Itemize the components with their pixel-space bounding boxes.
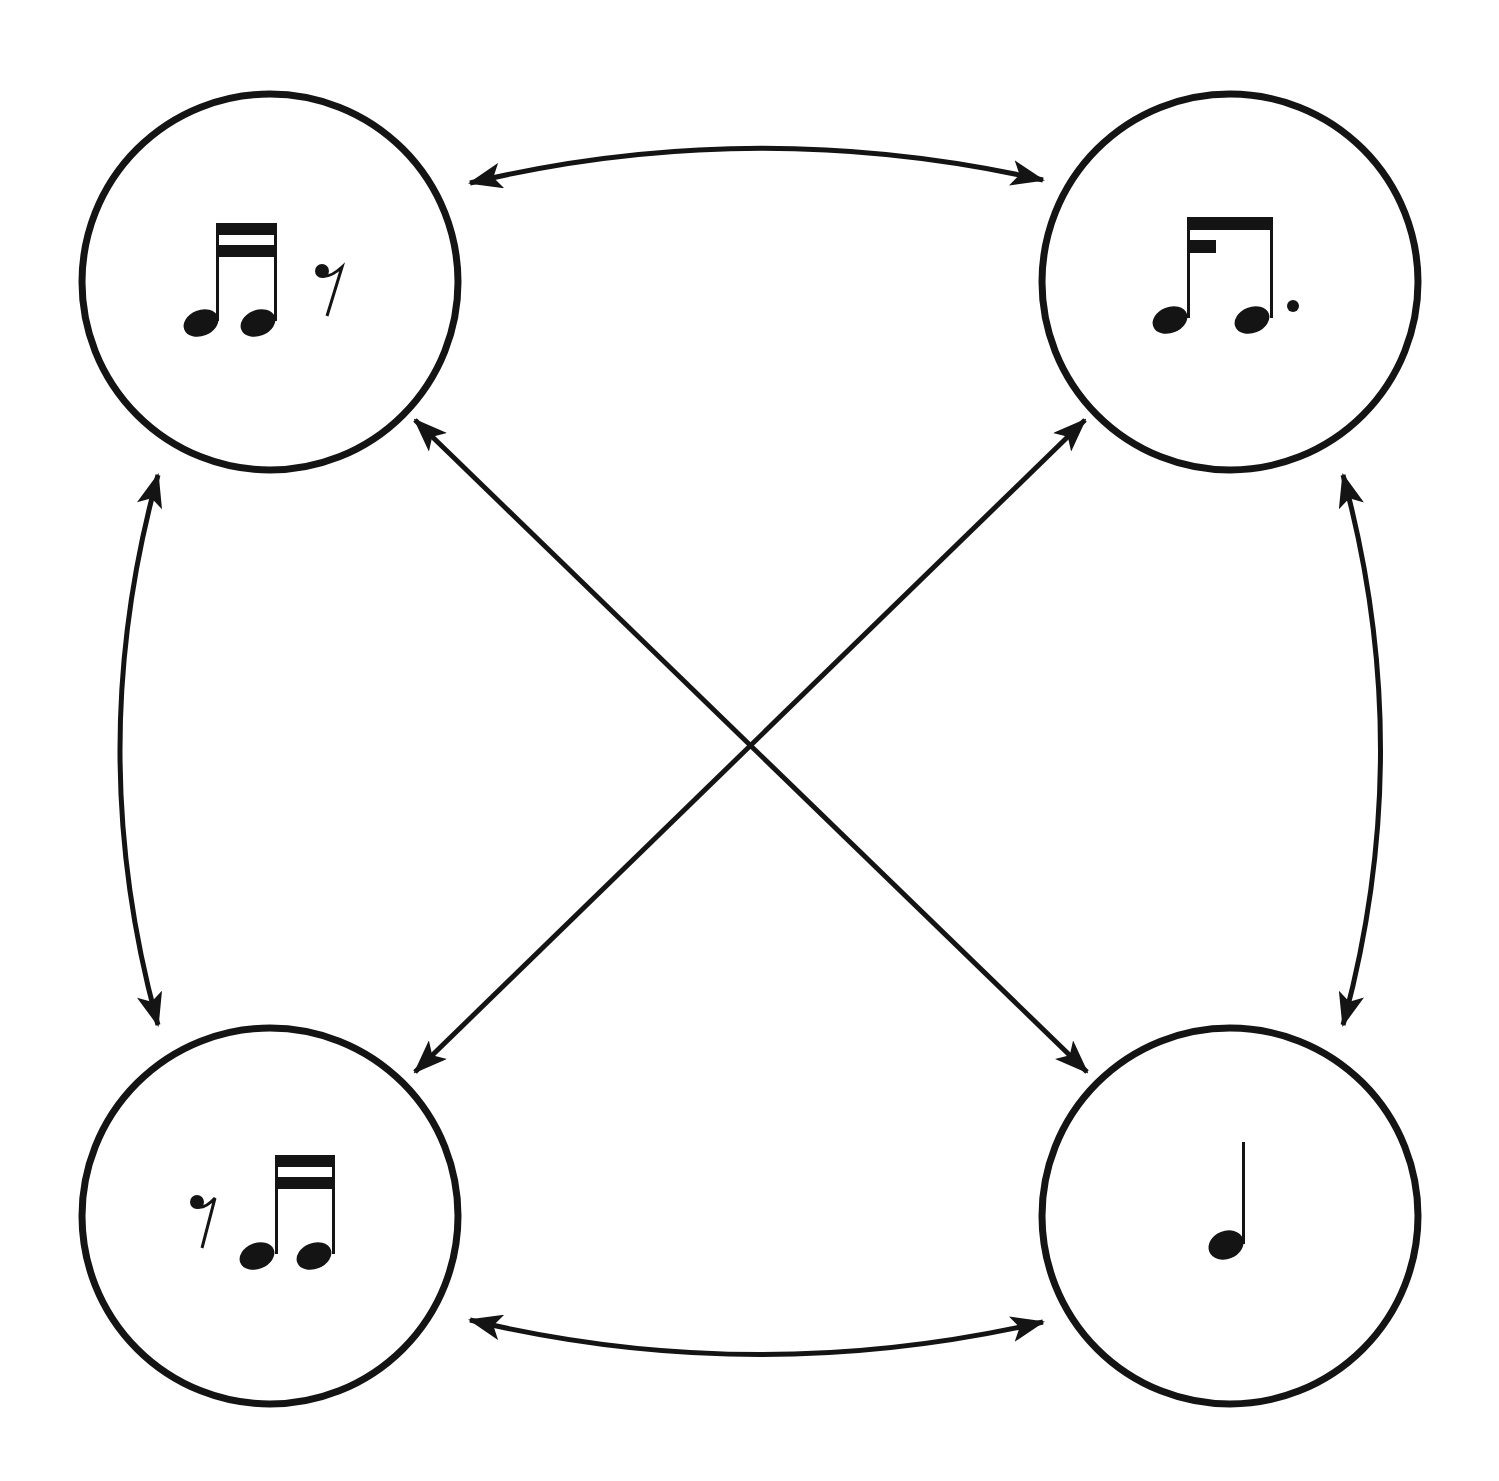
node-top-right — [1042, 94, 1418, 470]
edge-bottom-left-bottom-right — [470, 1320, 1043, 1355]
edge-top-right-bottom-right — [1343, 475, 1381, 1025]
edge-top-left-bottom-left — [120, 475, 158, 1025]
edge-top-left-top-right — [470, 148, 1043, 183]
rhythm-graph-diagram — [0, 0, 1499, 1481]
node-bottom-right — [1042, 1028, 1418, 1404]
node-top-left — [82, 94, 458, 470]
node-bottom-left — [82, 1028, 458, 1404]
dot-icon — [1287, 300, 1299, 312]
